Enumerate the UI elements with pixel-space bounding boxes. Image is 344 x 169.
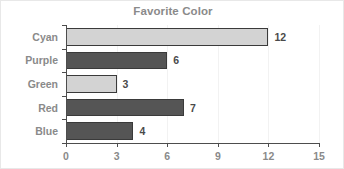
x-axis-tick xyxy=(218,143,219,147)
y-axis-tick xyxy=(62,119,67,120)
category-label: Blue xyxy=(1,125,58,137)
x-axis-tick-label: 9 xyxy=(198,150,238,162)
gridline-x xyxy=(268,25,269,143)
bar-value-label: 3 xyxy=(123,78,129,90)
x-axis-tick-label: 0 xyxy=(46,150,86,162)
bar[interactable] xyxy=(66,99,184,116)
x-axis-tick-label: 15 xyxy=(299,150,339,162)
x-axis-tick-label: 6 xyxy=(147,150,187,162)
x-axis-line xyxy=(66,143,320,144)
x-axis-tick xyxy=(319,143,320,147)
y-axis-tick xyxy=(62,143,67,144)
bar-chart: Favorite Color 0369121512Cyan6Purple3Gre… xyxy=(0,0,344,169)
x-axis-tick xyxy=(268,143,269,147)
bar-value-label: 7 xyxy=(190,102,196,114)
y-axis-tick xyxy=(62,49,67,50)
chart-title: Favorite Color xyxy=(1,5,344,17)
y-axis-tick xyxy=(62,72,67,73)
bar-value-label: 4 xyxy=(139,125,145,137)
bar[interactable] xyxy=(66,52,167,69)
x-axis-tick-label: 12 xyxy=(248,150,288,162)
bar[interactable] xyxy=(66,28,268,45)
category-label: Purple xyxy=(1,54,58,66)
bar-value-label: 6 xyxy=(173,54,179,66)
bar[interactable] xyxy=(66,75,117,92)
bar[interactable] xyxy=(66,122,133,139)
bar-value-label: 12 xyxy=(274,31,286,43)
x-axis-tick xyxy=(117,143,118,147)
y-axis-tick xyxy=(62,25,67,26)
category-label: Red xyxy=(1,102,58,114)
category-label: Cyan xyxy=(1,31,58,43)
x-axis-tick xyxy=(167,143,168,147)
y-axis-tick xyxy=(62,96,67,97)
y-axis-line xyxy=(66,25,67,144)
gridline-x xyxy=(319,25,320,143)
category-label: Green xyxy=(1,78,58,90)
x-axis-tick-label: 3 xyxy=(97,150,137,162)
